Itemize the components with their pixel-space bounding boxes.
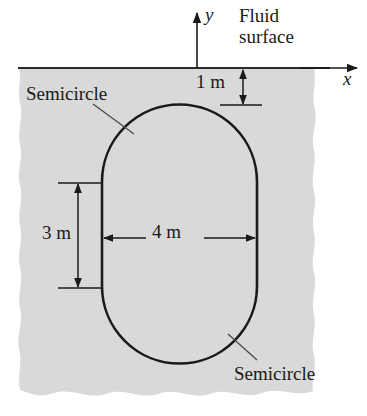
fluid-surface-label: Fluid surface — [239, 5, 294, 48]
fluid-surface-label-line1: Fluid — [239, 5, 294, 26]
x-axis-label: x — [343, 68, 351, 89]
y-axis-label: y — [205, 4, 213, 25]
dimension-label-1m: 1 m — [196, 71, 225, 92]
semicircle-label-top: Semicircle — [26, 83, 107, 104]
semicircle-label-bottom: Semicircle — [234, 363, 315, 384]
dimension-label-4m: 4 m — [152, 221, 181, 242]
diagram-svg — [0, 0, 367, 416]
figure-canvas: Fluid surface y x 1 m 3 m 4 m Semicircle… — [0, 0, 367, 416]
fluid-surface-label-line2: surface — [239, 26, 294, 47]
dimension-label-3m: 3 m — [42, 222, 71, 243]
